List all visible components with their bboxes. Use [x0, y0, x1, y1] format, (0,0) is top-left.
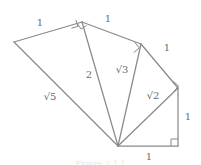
label-len-top: 1: [105, 13, 111, 24]
figure-container: 1 1 √2 1 √3 1 2 1 √5 Figure 2.1.1: [0, 0, 201, 165]
triangle-faces: [14, 22, 178, 146]
label-len-right: 1: [185, 111, 191, 122]
spiral-of-theodorus-diagram: 1 1 √2 1 √3 1 2 1 √5: [0, 0, 201, 165]
label-hyp-sqrt3: √3: [116, 64, 129, 75]
label-hyp-two: 2: [86, 69, 92, 80]
figure-caption: Figure 2.1.1: [0, 159, 201, 165]
label-hyp-sqrt5: √5: [44, 91, 57, 102]
label-len-left: 1: [37, 17, 43, 28]
label-hyp-sqrt2: √2: [147, 90, 160, 101]
label-len-upper-right: 1: [164, 42, 170, 53]
